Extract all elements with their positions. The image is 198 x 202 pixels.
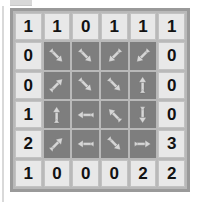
arrow-cell-left-r5-c3[interactable] bbox=[72, 130, 99, 157]
clue-value: 1 bbox=[167, 18, 176, 35]
arrow-left-icon bbox=[75, 104, 96, 126]
clue-cell-r4-c6: 0 bbox=[158, 101, 185, 128]
clue-cell-r6-c2: 0 bbox=[44, 160, 71, 187]
clue-cell-r1-c3: 0 bbox=[72, 13, 99, 40]
clue-value: 0 bbox=[81, 18, 90, 35]
arrow-up-icon bbox=[132, 74, 153, 96]
arrow-down-right-icon bbox=[104, 133, 125, 155]
clue-cell-r6-c4: 0 bbox=[101, 160, 128, 187]
arrow-cell-up-r4-c2[interactable] bbox=[44, 101, 71, 128]
arrow-down-left-icon bbox=[104, 45, 125, 67]
page-edge-rule bbox=[2, 6, 4, 202]
clue-cell-r4-c1: 1 bbox=[15, 101, 42, 128]
arrow-down-icon bbox=[132, 104, 153, 126]
clue-value: 0 bbox=[24, 47, 33, 64]
clue-cell-r3-c6: 0 bbox=[158, 72, 185, 99]
clue-value: 1 bbox=[110, 18, 119, 35]
arrow-down-left-icon bbox=[132, 45, 153, 67]
clue-cell-r5-c6: 3 bbox=[158, 130, 185, 157]
clue-cell-r6-c1: 1 bbox=[15, 160, 42, 187]
clue-cell-r1-c5: 1 bbox=[130, 13, 157, 40]
arrow-cell-down-right-r2-c2[interactable] bbox=[44, 42, 71, 69]
arrow-cell-down-right-r3-c4[interactable] bbox=[101, 72, 128, 99]
clue-cell-r3-c1: 0 bbox=[15, 72, 42, 99]
arrow-cell-down-r4-c5[interactable] bbox=[130, 101, 157, 128]
clue-value: 3 bbox=[167, 135, 176, 152]
clue-cell-r1-c4: 1 bbox=[101, 13, 128, 40]
arrow-right-icon bbox=[132, 133, 153, 155]
clipped-top-artifact bbox=[10, 0, 32, 6]
arrow-cell-down-right-r5-c4[interactable] bbox=[101, 130, 128, 157]
clue-cell-r5-c1: 2 bbox=[15, 130, 42, 157]
clue-cell-r6-c5: 2 bbox=[130, 160, 157, 187]
arrow-down-right-icon bbox=[46, 45, 67, 67]
clue-value: 1 bbox=[24, 106, 33, 123]
clue-value: 0 bbox=[167, 47, 176, 64]
arrow-cell-left-r4-c3[interactable] bbox=[72, 101, 99, 128]
clue-value: 0 bbox=[52, 165, 61, 182]
clue-value: 0 bbox=[110, 165, 119, 182]
arrow-cell-up-right-r5-c2[interactable] bbox=[44, 130, 71, 157]
arrow-up-right-icon bbox=[46, 133, 67, 155]
clue-value: 1 bbox=[24, 165, 33, 182]
clue-cell-r1-c6: 1 bbox=[158, 13, 185, 40]
puzzle-screenshot: 11011100001023100022 bbox=[0, 0, 198, 202]
arrow-cell-down-left-r2-c5[interactable] bbox=[130, 42, 157, 69]
arrow-up-icon bbox=[46, 104, 67, 126]
arrow-cell-right-r5-c5[interactable] bbox=[130, 130, 157, 157]
clue-cell-r1-c2: 1 bbox=[44, 13, 71, 40]
arrow-left-icon bbox=[75, 133, 96, 155]
clue-value: 1 bbox=[24, 18, 33, 35]
arrow-cell-down-right-r3-c3[interactable] bbox=[72, 72, 99, 99]
clue-value: 0 bbox=[167, 77, 176, 94]
clue-value: 1 bbox=[52, 18, 61, 35]
arrow-up-right-icon bbox=[46, 74, 67, 96]
arrow-cell-down-right-r2-c3[interactable] bbox=[72, 42, 99, 69]
clue-value: 1 bbox=[138, 18, 147, 35]
arrow-cell-up-r3-c5[interactable] bbox=[130, 72, 157, 99]
clue-value: 2 bbox=[138, 165, 147, 182]
clue-value: 2 bbox=[24, 135, 33, 152]
clue-value: 0 bbox=[81, 165, 90, 182]
clue-cell-r6-c6: 2 bbox=[158, 160, 185, 187]
clue-cell-r2-c1: 0 bbox=[15, 42, 42, 69]
clue-value: 0 bbox=[167, 106, 176, 123]
clue-value: 2 bbox=[167, 165, 176, 182]
puzzle-grid: 11011100001023100022 bbox=[15, 13, 185, 187]
arrow-down-right-icon bbox=[75, 74, 96, 96]
clue-cell-r2-c6: 0 bbox=[158, 42, 185, 69]
arrow-down-right-icon bbox=[104, 74, 125, 96]
clue-value: 0 bbox=[24, 77, 33, 94]
puzzle-board-frame: 11011100001023100022 bbox=[10, 8, 190, 192]
clue-cell-r1-c1: 1 bbox=[15, 13, 42, 40]
arrow-cell-down-left-r2-c4[interactable] bbox=[101, 42, 128, 69]
clue-cell-r6-c3: 0 bbox=[72, 160, 99, 187]
arrow-down-right-icon bbox=[75, 45, 96, 67]
arrow-cell-up-right-r3-c2[interactable] bbox=[44, 72, 71, 99]
arrow-cell-up-left-r4-c4[interactable] bbox=[101, 101, 128, 128]
arrow-up-left-icon bbox=[104, 104, 125, 126]
